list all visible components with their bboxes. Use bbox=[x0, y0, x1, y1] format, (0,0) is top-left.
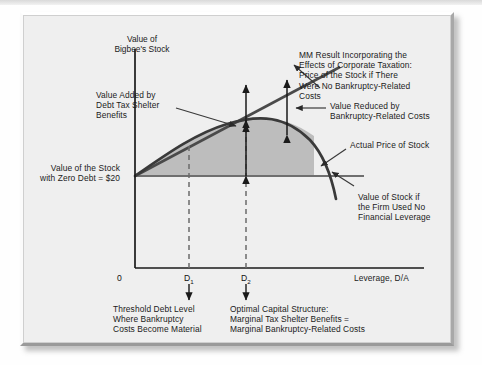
x-tick-d2: D2 bbox=[241, 273, 251, 285]
figure-panel-inner: Value of Bigbee's Stock MM Result Incorp… bbox=[23, 15, 451, 343]
tax-shelter-leader bbox=[176, 108, 236, 126]
y-axis-title: Value of Bigbee's Stock bbox=[94, 34, 190, 54]
no-leverage-leader bbox=[332, 172, 354, 186]
x-tick-d1: D1 bbox=[184, 273, 194, 285]
annotation-value-reduced: Value Reduced by Bankruptcy-Related Cost… bbox=[330, 101, 454, 121]
label-zero-debt-value: Value of the Stock with Zero Debt = $20 bbox=[10, 163, 120, 183]
top-edge-strip bbox=[0, 0, 482, 5]
annotation-no-leverage: Value of Stock if the Firm Used No Finan… bbox=[358, 192, 458, 223]
actual-price-leader bbox=[321, 149, 346, 166]
figure-panel: Value of Bigbee's Stock MM Result Incorp… bbox=[20, 12, 454, 346]
x-tick-0: 0 bbox=[117, 273, 122, 283]
screenshot-root: Value of Bigbee's Stock MM Result Incorp… bbox=[0, 0, 482, 365]
annotation-actual-price: Actual Price of Stock bbox=[350, 140, 460, 150]
caption-d2: Optimal Capital Structure: Marginal Tax … bbox=[230, 304, 410, 335]
annotation-mm-result: MM Result Incorporating the Effects of C… bbox=[299, 50, 449, 101]
annotation-tax-shelter: Value Added by Debt Tax Shelter Benefits bbox=[96, 90, 178, 121]
x-axis-title: Leverage, D/A bbox=[354, 273, 446, 283]
caption-d1: Threshold Debt Level Where Bankruptcy Co… bbox=[113, 304, 225, 335]
